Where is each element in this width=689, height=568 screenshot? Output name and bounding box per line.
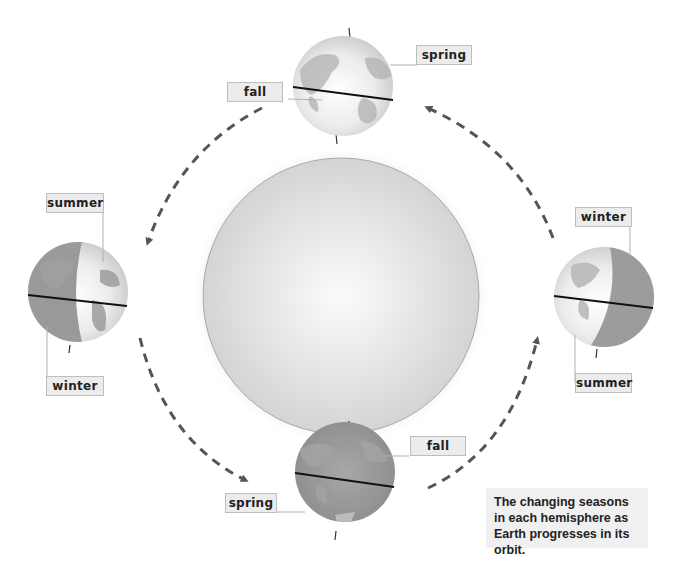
earth-left [28,242,128,353]
orbit-diagram [0,0,689,568]
label-top-fall: fall [227,82,283,102]
label-bottom-fall: fall [410,436,466,456]
label-bottom-spring: spring [225,493,277,513]
label-right-winter: winter [575,207,632,227]
earth-top [293,28,393,144]
earth-bottom [295,421,395,540]
label-left-summer: summer [46,193,104,213]
caption: The changing seasons in each hemisphere … [486,488,648,548]
earth-right [554,247,654,358]
label-top-spring: spring [416,45,472,65]
label-right-summer: summer [575,373,632,393]
label-left-winter: winter [46,376,104,396]
sun [191,146,491,446]
sun-disc [203,158,479,434]
